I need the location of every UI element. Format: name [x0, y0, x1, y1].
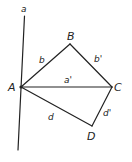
- label-point-A: A: [7, 81, 16, 94]
- label-segment-b-prime: b': [94, 54, 102, 64]
- label-line-a: a: [21, 4, 27, 14]
- segment-DC: [92, 87, 112, 126]
- line-a: [18, 16, 25, 150]
- point-A-dot: [19, 85, 22, 88]
- label-segment-d: d: [48, 112, 54, 122]
- label-segment-b: b: [39, 55, 45, 65]
- label-segment-a-prime: a': [64, 75, 72, 85]
- segment-BC: [70, 44, 112, 87]
- label-point-C: C: [114, 81, 122, 94]
- label-point-B: B: [67, 30, 75, 43]
- segment-AB: [21, 44, 70, 87]
- label-point-D: D: [87, 130, 95, 143]
- segment-AD: [21, 87, 92, 126]
- label-segment-d-prime: d': [103, 108, 111, 118]
- geometry-diagram: a A B C D b b' a' d d': [0, 0, 132, 162]
